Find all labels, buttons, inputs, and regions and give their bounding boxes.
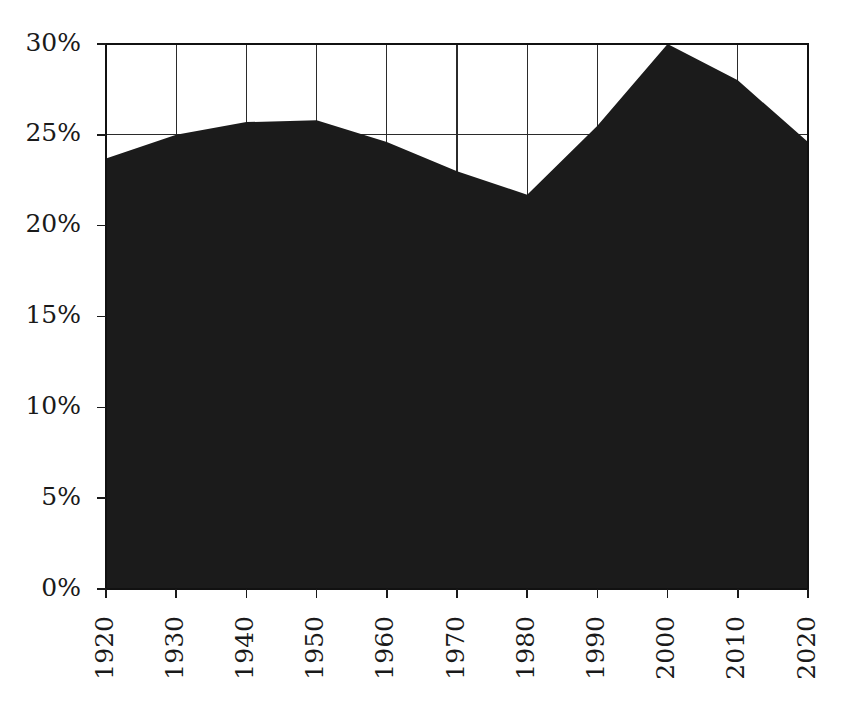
x-tick-label: 2010 (721, 616, 750, 680)
x-tick-label: 1920 (90, 616, 119, 680)
x-tick-label: 1980 (511, 616, 540, 680)
y-tick-label: 30% (25, 28, 81, 57)
chart-canvas: 0%5%10%15%20%25%30% 19201930194019501960… (0, 0, 849, 711)
x-tick-label: 1960 (370, 616, 399, 680)
y-tick-label: 0% (41, 573, 81, 602)
y-tick-label: 10% (25, 391, 81, 420)
x-tick-label: 2000 (651, 616, 680, 680)
area-chart-figure: 0%5%10%15%20%25%30% 19201930194019501960… (0, 0, 849, 711)
x-tick-label: 1940 (230, 616, 259, 680)
x-tick-label: 1990 (581, 616, 610, 680)
x-tick-label: 1930 (160, 616, 189, 680)
x-tick-label: 1970 (441, 616, 470, 680)
y-tick-label: 5% (41, 482, 81, 511)
y-tick-label: 25% (25, 118, 81, 147)
x-tick-label: 2020 (792, 616, 821, 680)
y-tick-label: 20% (25, 209, 81, 238)
y-tick-label: 15% (25, 300, 81, 329)
x-tick-label: 1950 (300, 616, 329, 680)
